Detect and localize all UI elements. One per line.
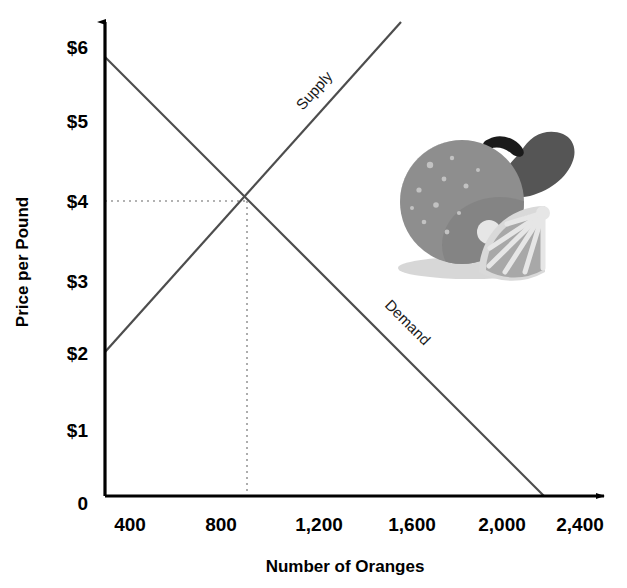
x-tick-label-1600: 1,600 [388, 514, 436, 535]
y-tick-label-2: $2 [67, 343, 88, 364]
y-tick-label-6: $6 [67, 37, 88, 58]
x-axis-title: Number of Oranges [266, 557, 425, 576]
x-tick-label-2000: 2,000 [478, 514, 526, 535]
x-tick-label-2400: 2,400 [556, 514, 604, 535]
x-tick-label-800: 800 [205, 514, 237, 535]
y-tick-label-0: 0 [77, 493, 88, 514]
y-tick-label-3: $3 [67, 271, 88, 292]
y-tick-label-1: $1 [67, 420, 89, 441]
chart-canvas: Supply Demand $6 $5 $4 $3 $2 $1 0 400 80… [0, 0, 627, 588]
wedge-center [536, 206, 550, 220]
y-axis-title: Price per Pound [13, 197, 32, 327]
y-tick-label-4: $4 [67, 191, 89, 212]
supply-demand-chart: Supply Demand $6 $5 $4 $3 $2 $1 0 400 80… [0, 0, 627, 588]
x-tick-label-1200: 1,200 [295, 514, 343, 535]
x-tick-label-400: 400 [114, 514, 146, 535]
y-tick-label-5: $5 [67, 111, 89, 132]
